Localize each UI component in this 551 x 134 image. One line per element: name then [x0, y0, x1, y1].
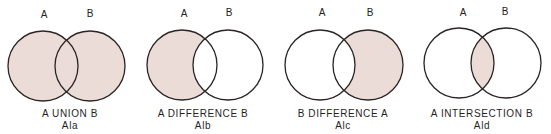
shaded-region-union — [8, 31, 125, 101]
venn-panel-a-difference-b: A B A DIFFERENCE B Alb — [147, 7, 263, 131]
shaded-region-a-minus-b — [147, 30, 263, 100]
venn-diagram-figure: A B A UNION B Ala A B A DIFFERENCE B Alb… — [0, 0, 551, 134]
venn-panel-union: A B A UNION B Ala — [8, 8, 125, 131]
panel-caption: A DIFFERENCE B — [158, 108, 249, 119]
set-a-label: A — [41, 9, 48, 20]
shaded-region-b-minus-a — [285, 30, 403, 100]
panel-caption: A UNION B — [42, 108, 98, 119]
figure-id-label: Ald — [474, 120, 490, 131]
panel-caption: B DIFFERENCE A — [298, 108, 389, 119]
set-b-label: B — [502, 6, 509, 17]
set-b-label: B — [367, 7, 374, 18]
figure-id-label: Alc — [335, 120, 351, 131]
panel-caption: A INTERSECTION B — [431, 108, 533, 119]
set-a-label: A — [319, 7, 326, 18]
figure-id-label: Alb — [195, 120, 211, 131]
set-a-label: A — [460, 7, 467, 18]
set-a-label: A — [181, 8, 188, 19]
venn-panel-intersection: A B A INTERSECTION B Ald — [424, 6, 541, 131]
set-b-label: B — [87, 8, 94, 19]
venn-panel-b-difference-a: A B B DIFFERENCE A Alc — [285, 7, 403, 131]
set-b-label: B — [226, 7, 233, 18]
figure-id-label: Ala — [62, 120, 78, 131]
